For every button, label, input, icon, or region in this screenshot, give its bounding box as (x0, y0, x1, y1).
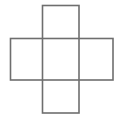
vertical-rectangle (43, 6, 80, 114)
cross-figure-svg (0, 0, 119, 120)
horizontal-rectangle (11, 39, 114, 81)
figure-canvas (0, 0, 119, 120)
